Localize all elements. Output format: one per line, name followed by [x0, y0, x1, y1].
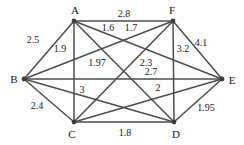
edge-weight-AD: 1.97 [88, 57, 106, 68]
edge-weight-EF: 4.1 [195, 37, 208, 48]
node-F [171, 19, 176, 24]
node-C [72, 120, 77, 125]
edge-weight-AE: 1.6 [102, 22, 115, 33]
edge-weight-AB: 2.5 [27, 34, 40, 45]
node-label-A: A [71, 4, 79, 16]
edge-weight-BC: 2.4 [31, 100, 44, 111]
graph-canvas: 2.51.91.971.62.82.432.71.71.822.31.953.2… [0, 0, 244, 145]
node-D [172, 120, 177, 125]
node-A [72, 19, 77, 24]
edge-weight-AF: 2.8 [118, 8, 131, 19]
node-E [220, 77, 225, 82]
edge-weight-BD: 3 [80, 84, 85, 95]
node-B [22, 77, 27, 82]
node-label-B: B [10, 73, 17, 85]
node-label-E: E [229, 74, 236, 86]
edge-weight-CD: 1.8 [119, 127, 132, 138]
node-label-F: F [169, 4, 175, 16]
node-label-D: D [172, 128, 180, 140]
edge-CE [74, 79, 222, 122]
edge-weight-CF: 2.3 [140, 57, 153, 68]
edge-weight-DE: 1.95 [197, 102, 215, 113]
edge-weight-AC: 1.9 [54, 43, 67, 54]
edge-weight-DF: 3.2 [177, 43, 190, 54]
edge-BD [24, 79, 174, 122]
weighted-graph-figure: 2.51.91.971.62.82.432.71.71.822.31.953.2… [0, 0, 244, 145]
edge-weight-BF: 1.7 [125, 22, 138, 33]
edge-weight-CE: 2 [156, 82, 161, 93]
edge-AB [24, 21, 74, 79]
edge-DF [173, 21, 174, 122]
node-label-C: C [68, 128, 75, 140]
